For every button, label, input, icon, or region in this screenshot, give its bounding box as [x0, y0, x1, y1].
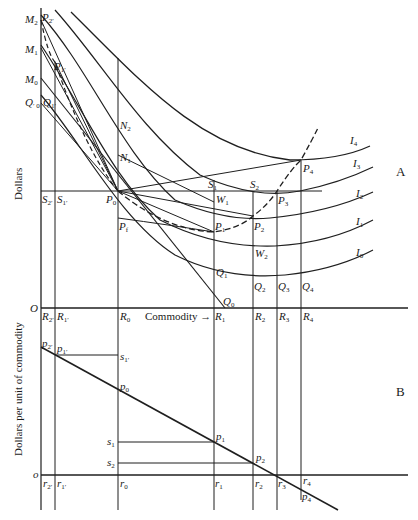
panel-a: M2 P2′ M1 P1′ M0 Q′ 0 Q1′ N2 N1 S2′ S1′ …: [12, 8, 408, 324]
label-i2: I2: [355, 187, 364, 201]
label-m2: M2: [24, 13, 38, 27]
label-s1prime: S1′: [57, 193, 68, 207]
label-r4: R4: [302, 310, 314, 324]
label-i0: I0: [355, 246, 364, 260]
label-s2prime: S2′: [42, 193, 53, 207]
label-r0-b: r0: [120, 477, 128, 491]
label-q1: Q1: [216, 266, 228, 280]
label-r1prime: R1′: [56, 310, 69, 324]
y-axis-label-a: Dollars: [12, 168, 24, 200]
label-s1-b: s1: [107, 435, 115, 449]
label-w1: W1: [216, 193, 229, 207]
label-r4-b: r4: [303, 474, 311, 488]
x-axis-label-a: Commodity →: [145, 310, 211, 322]
label-m1: M1: [24, 43, 38, 57]
y-axis-label-b: Dollars per unit of commodity: [12, 322, 24, 456]
label-r2-b: r2: [255, 477, 263, 491]
demand-line: [41, 347, 338, 510]
label-s2-b: s2: [107, 456, 115, 470]
label-p1prime-b: p1′: [56, 342, 68, 356]
pf-line: [118, 218, 214, 232]
line-p0-p1: [118, 191, 214, 232]
indifference-curve-i2: [41, 15, 373, 219]
label-s1prime-b: s1′: [120, 350, 130, 364]
label-r2prime: R2′: [41, 310, 54, 324]
label-n2: N2: [119, 119, 131, 133]
label-i1: I1: [355, 215, 364, 229]
label-p4: P4: [302, 162, 314, 176]
line-p0-w1: [118, 191, 253, 216]
panel-b: p2′ p1′ s1′ p0 s1 s2 p1 p2 p4 B Dollars …: [12, 308, 408, 510]
budget-line-m1: [41, 48, 118, 191]
label-p2-b: p2: [255, 451, 266, 465]
label-p3: P3: [277, 194, 289, 208]
label-p1-b: p1: [215, 430, 226, 444]
label-s2: S2: [250, 178, 260, 192]
label-origin-a: O: [30, 302, 38, 314]
label-p2prime-b: p2′: [41, 337, 53, 351]
label-i3: I3: [352, 157, 361, 171]
label-i4: I4: [349, 134, 358, 148]
label-q0: Q0: [223, 295, 235, 309]
line-n1: [118, 155, 214, 202]
label-r1prime-b: r1′: [57, 477, 67, 491]
label-s1: S1: [208, 178, 218, 192]
economic-diagram: M2 P2′ M1 P1′ M0 Q′ 0 Q1′ N2 N1 S2′ S1′ …: [0, 0, 418, 520]
label-q2: Q2: [254, 280, 266, 294]
label-n1: N1: [119, 151, 131, 165]
label-origin-b: o: [33, 468, 39, 480]
label-p2prime: P2′: [41, 11, 54, 25]
label-r2: R2: [254, 310, 266, 324]
label-q1prime: Q1′: [43, 96, 56, 110]
label-p2: P2: [253, 220, 265, 234]
label-q3: Q3: [278, 280, 290, 294]
label-r3: R3: [278, 310, 290, 324]
panel-b-label: B: [396, 384, 405, 399]
budget-line-m0: [41, 78, 225, 308]
label-r2prime-b: r2′: [43, 477, 53, 491]
label-p1prime: P1′: [53, 60, 66, 74]
label-q4: Q4: [302, 280, 314, 294]
label-r3-b: r3: [278, 477, 286, 491]
indifference-curve-i1: [41, 45, 373, 246]
label-r1-b: r1: [215, 477, 223, 491]
label-p4-b: p4: [301, 490, 312, 504]
label-w2: W2: [255, 247, 268, 261]
label-pf: Pf: [118, 220, 129, 234]
label-r0: R0: [119, 310, 131, 324]
label-p0-b: p0: [119, 380, 130, 394]
label-p1: P1: [214, 220, 226, 234]
indifference-curve-i3: [55, 10, 373, 193]
panel-a-label: A: [396, 164, 406, 179]
label-m0: M0: [24, 73, 38, 87]
label-r1: R1: [214, 310, 226, 324]
label-q0prime: Q′ 0: [25, 96, 40, 110]
